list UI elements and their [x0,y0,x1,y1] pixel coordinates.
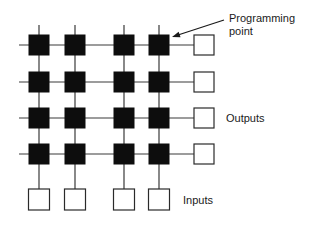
programming-point-node [65,35,86,56]
programming-point-node [149,144,170,165]
arrow-shaft [178,20,224,35]
programming-point-node [114,108,135,129]
input-box [65,189,86,210]
programming-point-node [65,72,86,93]
programming-point-node [114,72,135,93]
programming-point-node [65,108,86,129]
input-boxes [29,189,170,210]
programming-point-node [114,144,135,165]
programming-point-node [29,35,50,56]
programming-point-node [29,108,50,129]
programming-point-label: Programming point [229,12,295,37]
programming-point-node [114,35,135,56]
programming-point-node [149,35,170,56]
programming-point-label-line2: point [229,25,295,37]
arrow-head [172,32,181,38]
output-box [194,35,214,55]
output-boxes [194,35,214,164]
input-box [149,189,170,210]
inputs-label: Inputs [183,194,213,206]
input-box [29,189,50,210]
outputs-label: Outputs [226,112,265,124]
programming-point-node [29,144,50,165]
input-box [114,189,135,210]
output-box [194,72,214,92]
programming-point-node [65,144,86,165]
programming-point-node [29,72,50,93]
programming-point-label-line1: Programming [229,12,295,24]
programming-point-node [149,72,170,93]
programming-points [29,35,170,165]
programming-point-node [149,108,170,129]
output-box [194,108,214,128]
output-box [194,144,214,164]
